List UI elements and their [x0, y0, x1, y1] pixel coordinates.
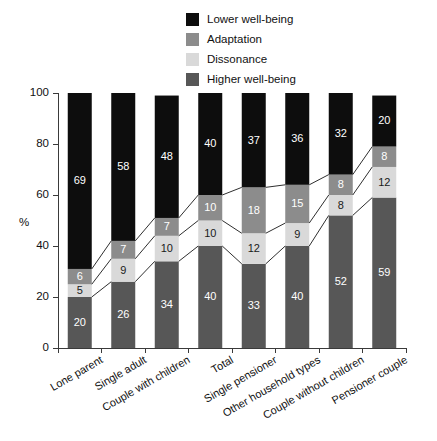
y-tick-label: 80 [36, 137, 49, 149]
bar-segment-value-label: 33 [248, 299, 260, 311]
bar-segment-value-label: 9 [294, 228, 300, 240]
stack-connector-line [135, 261, 155, 281]
bar-segment-value-label: 5 [77, 284, 83, 296]
bar-group: 3410748 [155, 96, 179, 348]
y-tick-label: 40 [36, 239, 49, 251]
bar-segment-value-label: 69 [74, 174, 86, 186]
stack-connector-line [135, 218, 155, 241]
bar-group: 4091536 [285, 93, 309, 348]
bar-segment-value-label: 48 [161, 150, 173, 162]
bar-segment-value-label: 37 [248, 134, 260, 146]
x-tick-label: Pensioner couple [330, 353, 410, 406]
bar-segment-value-label: 9 [120, 264, 126, 276]
stack-connector-line [353, 198, 373, 216]
y-tick-label: 100 [30, 86, 49, 98]
bar-segment-value-label: 10 [161, 242, 173, 254]
bar-segment-value-label: 40 [204, 137, 216, 149]
bar-segment-value-label: 40 [204, 290, 216, 302]
bar-segment-value-label: 20 [378, 114, 390, 126]
bar-segment-value-label: 59 [378, 266, 390, 278]
bar-segment-value-label: 26 [117, 308, 129, 320]
bar-segment-value-label: 20 [74, 316, 86, 328]
stacked-bar-chart: Lower well-being Adaptation Dissonance H… [0, 0, 437, 441]
bar-segment-value-label: 7 [164, 220, 170, 232]
bar-group: 528832 [329, 93, 353, 348]
stack-connector-line [309, 215, 329, 246]
stack-connector-line [179, 221, 199, 236]
y-tick-label: 60 [36, 188, 49, 200]
bar-segment-value-label: 18 [248, 204, 260, 216]
bar-segment-value-label: 40 [291, 290, 303, 302]
stack-connector-line [92, 241, 112, 269]
stack-connector-line [222, 187, 242, 195]
plot-area: 020406080100%205669269758341074840101040… [0, 0, 437, 441]
bar-segment-value-label: 32 [335, 127, 347, 139]
bar-segment-value-label: 6 [77, 270, 83, 282]
bar-segment-value-label: 8 [338, 199, 344, 211]
bar-segment-value-label: 52 [335, 275, 347, 287]
bar-segment-value-label: 58 [117, 160, 129, 172]
stack-connector-line [266, 246, 286, 264]
y-axis-title: % [19, 216, 29, 228]
stack-connector-line [222, 246, 242, 264]
stack-connector-line [309, 175, 329, 185]
y-tick-label: 20 [36, 290, 49, 302]
bar-group: 33121837 [242, 93, 266, 348]
x-tick-label: Total [209, 353, 235, 375]
bar-group: 205669 [68, 93, 92, 348]
bar-segment-value-label: 8 [338, 178, 344, 190]
y-tick-label: 0 [43, 341, 49, 353]
bar-group: 40101040 [198, 93, 222, 348]
stack-connector-line [92, 259, 112, 285]
bar-segment-value-label: 12 [248, 242, 260, 254]
stack-connector-line [92, 282, 112, 297]
stack-connector-line [179, 195, 199, 218]
bar-group: 5912820 [372, 96, 396, 348]
bar-segment-value-label: 15 [291, 197, 303, 209]
bar-segment-value-label: 7 [120, 243, 126, 255]
stack-connector-line [222, 221, 242, 234]
stack-connector-line [266, 185, 286, 188]
bar-segment-value-label: 10 [204, 201, 216, 213]
bar-segment-value-label: 12 [378, 176, 390, 188]
stack-connector-line [135, 236, 155, 259]
bar-segment-value-label: 36 [291, 132, 303, 144]
stack-connector-line [309, 195, 329, 223]
bar-segment-value-label: 8 [381, 150, 387, 162]
stack-connector-line [266, 223, 286, 233]
bar-segment-value-label: 10 [204, 227, 216, 239]
stack-connector-line [179, 246, 199, 261]
bar-segment-value-label: 34 [161, 298, 173, 310]
bar-group: 269758 [111, 93, 135, 348]
